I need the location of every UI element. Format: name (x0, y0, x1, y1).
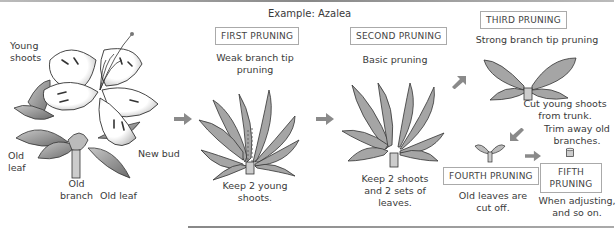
step-5-title: FIFTH PRUNING (540, 163, 602, 193)
step-3-note: Cut young shoots from trunk. (520, 98, 610, 122)
label-new-bud: New bud (138, 148, 180, 160)
step-1-title: FIRST PRUNING (215, 27, 299, 45)
top-rule (0, 0, 614, 2)
step-4-desc: Old leaves are cut off. (443, 190, 543, 214)
step-4-title: FOURTH PRUNING (443, 167, 539, 185)
fourth-pruning-illustration (475, 140, 505, 162)
label-old-leaf-bottom: Old leaf (100, 190, 137, 202)
label-young-shoots: Young shoots (10, 40, 41, 64)
arrow-right-icon (174, 113, 192, 125)
step-3-desc: Strong branch tip pruning (467, 34, 607, 46)
step-2-note: Keep 2 shoots and 2 sets of leaves. (350, 173, 440, 209)
label-old-branch: Old branch (60, 178, 93, 202)
step-3-title: THIRD PRUNING (480, 11, 567, 29)
fifth-pruning-illustration (566, 148, 574, 157)
step-1-note: Keep 2 young shoots. (215, 180, 295, 204)
arrow-right-icon (525, 150, 541, 162)
arrow-up-right-icon (452, 75, 466, 89)
third-pruning-illustration (480, 50, 580, 100)
arrow-right-icon (316, 113, 334, 125)
arrow-down-left-icon (510, 128, 524, 142)
bottom-rule (188, 226, 614, 228)
step-5-note: Trim away old branches. (540, 123, 614, 147)
step-2-desc: Basic pruning (350, 54, 440, 66)
step-5-desc: When adjusting, and so on. (538, 195, 616, 219)
second-pruning-illustration (338, 75, 448, 167)
first-pruning-illustration (195, 80, 305, 175)
diagram-title: Example: Azalea (268, 8, 351, 20)
label-old-leaf-left: Old leaf (8, 150, 26, 174)
step-1-desc: Weak branch tip pruning (215, 52, 295, 76)
step-2-title: SECOND PRUNING (350, 27, 447, 45)
